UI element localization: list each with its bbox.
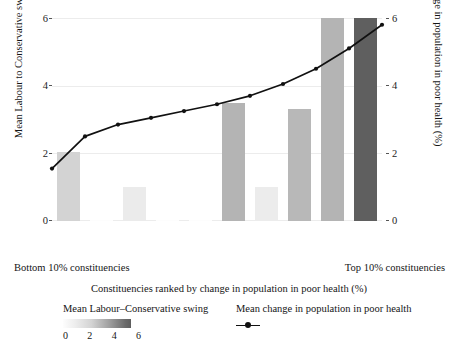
line-point-10	[380, 23, 384, 27]
y-tickmark-right-6	[386, 18, 389, 19]
legend-colorbar-title: Mean Labour–Conservative swing	[63, 303, 208, 315]
legend: Mean Labour–Conservative swing 0 2 4 6 M…	[0, 303, 458, 349]
line-point-2	[116, 122, 120, 126]
x-caption-right: Top 10% constituencies	[345, 262, 445, 273]
legend-colorbar-gradient	[63, 319, 131, 328]
y-axis-right-title: Mean change in population in poor health…	[433, 0, 444, 165]
line-point-9	[347, 46, 351, 50]
legend-colorbar-tick-2: 2	[87, 330, 92, 341]
y-tickmark-right-2	[386, 153, 389, 154]
y-axis-left-title: Mean Labour to Conservative swing	[13, 0, 24, 162]
legend-colorbar-tick-4: 4	[112, 330, 117, 341]
line-point-5	[215, 102, 219, 106]
chart-figure: Mean Labour to Conservative swing Mean c…	[0, 0, 458, 353]
y-tick-left-4: 4	[30, 80, 48, 91]
y-tick-right-6: 6	[392, 13, 410, 24]
legend-line-block: Mean change in population in poor health	[236, 303, 412, 331]
y-tick-left-2: 2	[30, 148, 48, 159]
legend-colorbar-ticks: 0 2 4 6	[63, 330, 141, 341]
x-axis-title: Constituencies ranked by change in popul…	[0, 283, 458, 294]
y-tick-right-2: 2	[392, 148, 410, 159]
legend-line-swatch	[236, 321, 260, 331]
line-point-6	[248, 94, 252, 98]
y-tickmark-right-4	[386, 85, 389, 86]
y-tick-right-0: 0	[392, 215, 410, 226]
line-point-0	[50, 166, 54, 170]
x-caption-left: Bottom 10% constituencies	[14, 262, 130, 273]
line-point-1	[83, 134, 87, 138]
legend-line-marker-icon	[245, 322, 251, 328]
line-point-7	[281, 82, 285, 86]
legend-line-title: Mean change in population in poor health	[236, 303, 412, 315]
legend-colorbar-tick-0: 0	[63, 330, 68, 341]
y-tick-left-6: 6	[30, 13, 48, 24]
line-point-4	[182, 109, 186, 113]
legend-colorbar-tick-6: 6	[136, 330, 141, 341]
legend-colorbar-block: Mean Labour–Conservative swing 0 2 4 6	[63, 303, 208, 341]
line-point-3	[149, 116, 153, 120]
plot-area	[52, 18, 382, 221]
line-point-8	[314, 67, 318, 71]
y-tick-left-0: 0	[30, 215, 48, 226]
line-series	[52, 18, 382, 221]
y-tickmark-right-0	[386, 220, 389, 221]
y-tick-right-4: 4	[392, 80, 410, 91]
